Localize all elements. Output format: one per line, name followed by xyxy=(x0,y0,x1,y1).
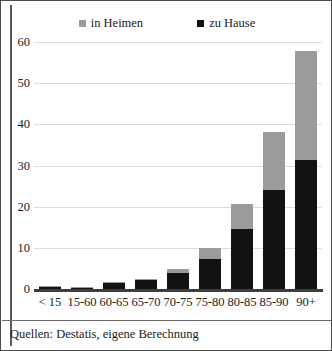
bar-segment-in-heimen[interactable] xyxy=(199,248,221,259)
x-axis-tick-label: 80-85 xyxy=(226,295,258,315)
y-axis-tick-label: 50 xyxy=(4,76,30,91)
x-axis-tick-label: 65-70 xyxy=(130,295,162,315)
legend-swatch-in-heimen-icon xyxy=(79,20,86,27)
x-axis-tick-label: < 15 xyxy=(34,295,66,315)
bar-slot xyxy=(258,42,290,289)
y-axis-tick-label: 40 xyxy=(4,117,30,132)
bar-segment-in-heimen[interactable] xyxy=(295,51,317,160)
chart-legend: in Heimen zu Hause xyxy=(1,13,332,33)
stacked-bar[interactable] xyxy=(263,132,285,289)
bar-series-group xyxy=(34,42,322,289)
x-axis-baseline xyxy=(34,289,323,292)
bar-segment-zu-hause[interactable] xyxy=(199,259,221,289)
bar-slot xyxy=(66,42,98,289)
x-axis-tick-labels: < 1515-6060-6565-7070-7575-8080-8585-909… xyxy=(34,295,322,315)
bar-slot xyxy=(290,42,322,289)
bar-slot xyxy=(34,42,66,289)
legend-item-zu-hause: zu Hause xyxy=(197,16,255,31)
x-axis-tick-label: 15-60 xyxy=(66,295,98,315)
y-axis-tick-label: 30 xyxy=(4,158,30,173)
source-note: Quellen: Destatis, eigene Berechnung xyxy=(10,327,199,342)
y-axis-tick-labels: 0102030405060 xyxy=(1,42,30,289)
bar-slot xyxy=(194,42,226,289)
stacked-bar[interactable] xyxy=(295,51,317,289)
legend-label-zu-hause: zu Hause xyxy=(209,16,255,31)
bar-segment-zu-hause[interactable] xyxy=(231,229,253,289)
bar-segment-zu-hause[interactable] xyxy=(263,190,285,289)
y-axis-tick-label: 60 xyxy=(4,35,30,50)
bar-segment-zu-hause[interactable] xyxy=(167,273,189,289)
chart-figure: in Heimen zu Hause 0102030405060 < 1515-… xyxy=(0,0,332,351)
bar-segment-in-heimen[interactable] xyxy=(231,204,253,229)
stacked-bar[interactable] xyxy=(199,248,221,289)
footer-divider xyxy=(2,320,332,321)
x-axis-tick-label: 85-90 xyxy=(258,295,290,315)
stacked-bar[interactable] xyxy=(135,279,157,289)
bar-slot xyxy=(130,42,162,289)
y-axis-tick-label: 0 xyxy=(4,282,30,297)
y-axis-tick-label: 20 xyxy=(4,199,30,214)
bar-segment-zu-hause[interactable] xyxy=(135,280,157,289)
x-axis-tick-label: 75-80 xyxy=(194,295,226,315)
x-axis-tick-label: 70-75 xyxy=(162,295,194,315)
bar-slot xyxy=(226,42,258,289)
bar-segment-in-heimen[interactable] xyxy=(263,132,285,190)
bar-segment-zu-hause[interactable] xyxy=(295,160,317,289)
stacked-bar[interactable] xyxy=(103,282,125,289)
y-axis-tick-label: 10 xyxy=(4,240,30,255)
stacked-bar[interactable] xyxy=(167,269,189,289)
x-axis-tick-label: 90+ xyxy=(290,295,322,315)
bar-slot xyxy=(162,42,194,289)
stacked-bar[interactable] xyxy=(231,204,253,289)
legend-label-in-heimen: in Heimen xyxy=(91,16,143,31)
bar-slot xyxy=(98,42,130,289)
x-axis-tick-label: 60-65 xyxy=(98,295,130,315)
legend-swatch-zu-hause-icon xyxy=(197,20,204,27)
legend-item-in-heimen: in Heimen xyxy=(79,16,143,31)
